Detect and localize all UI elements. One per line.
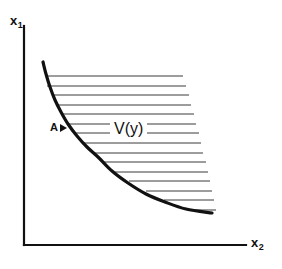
y-axis-label: x1 <box>10 14 23 30</box>
hatching-lines <box>45 76 216 210</box>
isoquant-diagram: x1 x2 V(y) A <box>0 0 282 269</box>
point-label-a: A <box>49 122 59 133</box>
y-axis-label-subscript: 1 <box>17 20 23 30</box>
x-axis-label-subscript: 2 <box>258 242 264 252</box>
x-axis-label: x2 <box>251 236 264 252</box>
region-label-vy: V(y) <box>110 120 147 139</box>
point-a-marker <box>60 124 67 132</box>
